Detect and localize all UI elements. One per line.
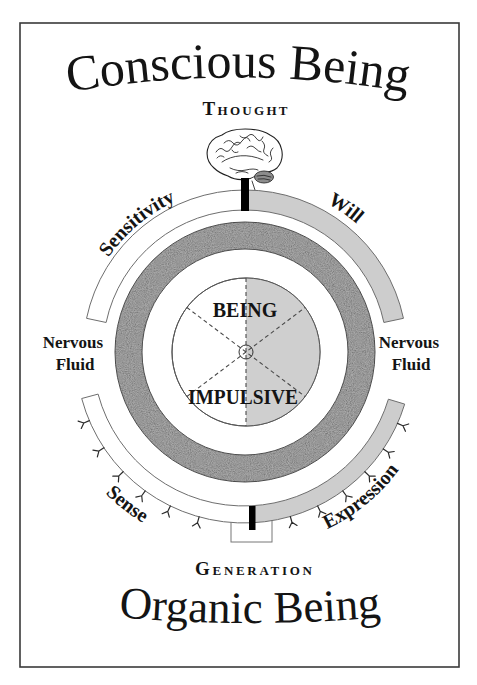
label-fluid-left: Fluid (56, 355, 95, 374)
label-generation: Generation (195, 558, 313, 579)
top-connector-bar-overlay (241, 186, 249, 211)
title-organic-being: Organic Being (118, 577, 382, 633)
label-nervous-left: Nervous (43, 333, 104, 352)
label-fluid-right: Fluid (392, 355, 431, 374)
title-bottom-text: Organic Being (118, 577, 382, 633)
label-being: BEING (213, 299, 278, 321)
diagram-canvas: Conscious Being Thought Sensitivity Will (0, 0, 477, 685)
label-impulsive: IMPULSIVE (188, 386, 298, 408)
bottom-connector-bar (249, 506, 256, 530)
label-nervous-right: Nervous (379, 333, 440, 352)
